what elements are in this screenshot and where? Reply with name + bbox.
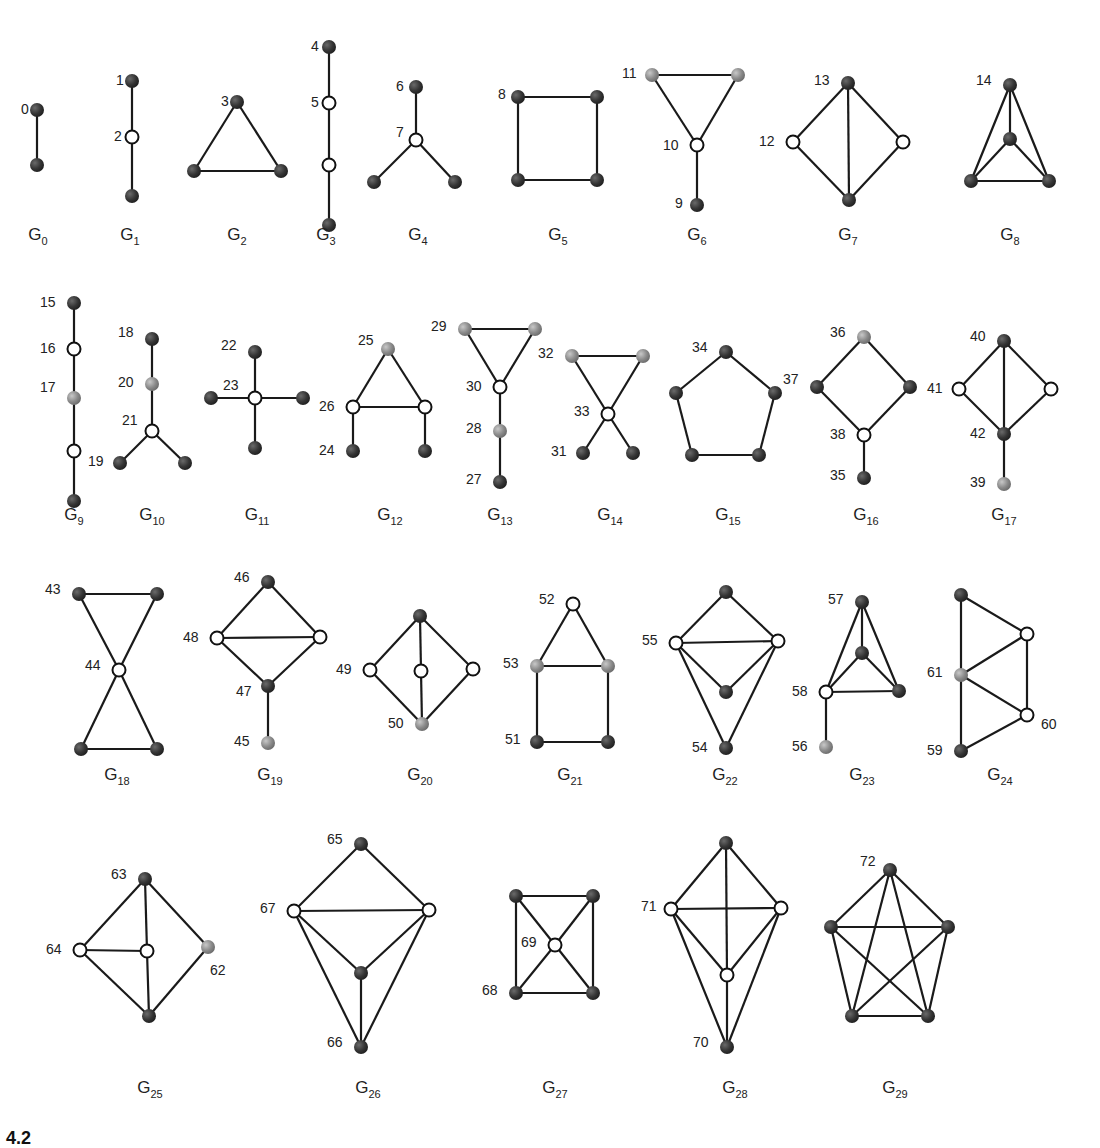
graph-G1: 12G1 — [114, 72, 140, 247]
graph-name: G29 — [882, 1078, 907, 1100]
graph-name: G19 — [257, 765, 282, 787]
graph-G28: 7170G28 — [641, 836, 788, 1100]
vertex-open — [953, 383, 966, 396]
graph-edge — [817, 337, 864, 387]
graph-name: G26 — [355, 1078, 380, 1100]
vertex-dark — [138, 872, 152, 886]
vertex-open — [288, 905, 301, 918]
vertex-label: 28 — [466, 420, 482, 436]
graph-name: G16 — [853, 505, 878, 527]
graph-edge — [1004, 341, 1051, 389]
graph-edge — [516, 945, 555, 993]
graph-name: G2 — [227, 225, 246, 247]
vertex-label: 63 — [111, 866, 127, 882]
vertex-label: 5 — [311, 94, 319, 110]
vertex-dark — [576, 446, 590, 460]
vertex-dark — [145, 332, 159, 346]
graph-edge — [890, 870, 928, 1016]
graph-G3: 45G3 — [311, 38, 336, 247]
vertex-dark — [30, 103, 44, 117]
vertex-dark — [30, 158, 44, 172]
vertex-label: 43 — [45, 581, 61, 597]
vertex-dark — [261, 575, 275, 589]
vertex-label: 53 — [503, 655, 519, 671]
vertex-dark — [204, 391, 218, 405]
vertex-label: 50 — [388, 715, 404, 731]
graph-edge — [826, 653, 862, 692]
vertex-dark — [719, 345, 733, 359]
graph-edge — [826, 602, 862, 692]
vertex-gray — [261, 736, 275, 750]
graph-G4: 67G4 — [367, 78, 462, 247]
vertex-label: 14 — [976, 72, 992, 88]
graph-edge — [671, 909, 727, 975]
graph-edge — [420, 616, 421, 671]
graph-edge — [864, 387, 910, 435]
graph-edge — [676, 643, 726, 748]
vertex-label: 26 — [319, 398, 335, 414]
vertex-dark — [752, 448, 766, 462]
graph-edge — [862, 602, 899, 691]
graph-edge — [961, 715, 1027, 751]
vertex-open — [494, 381, 507, 394]
vertex-label: 41 — [927, 380, 943, 396]
graph-edge — [959, 341, 1004, 389]
vertex-label: 19 — [88, 453, 104, 469]
graph-edge — [361, 910, 429, 973]
graph-name: G14 — [597, 505, 622, 527]
vertex-dark — [954, 744, 968, 758]
graph-edge — [928, 927, 948, 1016]
vertex-open — [314, 631, 327, 644]
vertex-dark — [150, 742, 164, 756]
vertex-gray — [819, 740, 833, 754]
vertex-label: 1 — [116, 72, 124, 88]
vertex-dark — [892, 684, 906, 698]
graph-G18: 4344G18 — [45, 581, 164, 787]
vertex-label: 44 — [85, 657, 101, 673]
vertex-dark — [883, 863, 897, 877]
vertex-label: 15 — [40, 294, 56, 310]
vertex-open — [323, 159, 336, 172]
graph-edge — [573, 604, 608, 666]
graph-edge — [388, 349, 425, 407]
vertex-label: 7 — [396, 124, 404, 140]
graph-edge — [194, 102, 237, 171]
vertex-dark — [1042, 174, 1056, 188]
graph-edge — [862, 653, 899, 691]
vertex-label: 34 — [692, 339, 708, 355]
graph-edge — [537, 604, 573, 666]
vertex-label: 70 — [693, 1034, 709, 1050]
graph-name: G1 — [120, 225, 139, 247]
graph-edge — [727, 908, 781, 1047]
vertex-dark — [842, 193, 856, 207]
graph-edge — [759, 393, 775, 455]
vertex-label: 29 — [431, 318, 447, 334]
vertex-gray — [997, 477, 1011, 491]
graph-G22: 5554G22 — [642, 585, 785, 787]
vertex-open — [126, 131, 139, 144]
vertex-label: 55 — [642, 632, 658, 648]
vertex-label: 48 — [183, 629, 199, 645]
vertex-dark — [509, 889, 523, 903]
vertex-open — [670, 637, 683, 650]
graph-edge — [237, 102, 281, 171]
graph-edge — [147, 951, 149, 1016]
caption-fragment: 4.2 — [6, 1128, 31, 1148]
vertex-label: 25 — [358, 332, 374, 348]
graph-G19: 46484745G19 — [183, 569, 327, 787]
vertex-dark — [413, 609, 427, 623]
graph-edge — [1010, 139, 1049, 181]
vertex-label: 67 — [260, 900, 276, 916]
vertex-label: 17 — [40, 379, 56, 395]
vertex-gray — [530, 659, 544, 673]
vertex-label: 54 — [692, 739, 708, 755]
vertex-open — [68, 343, 81, 356]
graph-edge — [217, 637, 320, 638]
vertex-dark — [354, 837, 368, 851]
vertex-open — [141, 945, 154, 958]
graph-edge — [370, 616, 420, 670]
vertex-label: 60 — [1041, 716, 1057, 732]
vertex-open — [423, 904, 436, 917]
vertex-gray — [381, 342, 395, 356]
graph-edge — [676, 592, 726, 643]
